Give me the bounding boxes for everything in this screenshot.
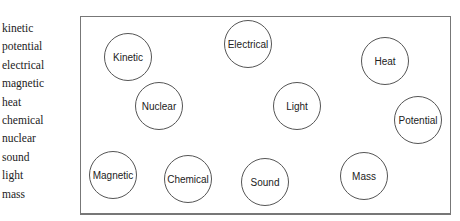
bubble-potential: Potential: [394, 96, 442, 144]
word-item: magnetic: [2, 74, 44, 92]
word-item: mass: [2, 185, 44, 203]
bubble-light: Light: [273, 82, 321, 130]
word-item: potential: [2, 37, 44, 55]
word-item: nuclear: [2, 129, 44, 147]
bubble-electrical: Electrical: [224, 20, 272, 68]
energy-word-list: kinetic potential electrical magnetic he…: [2, 19, 44, 203]
bubble-heat: Heat: [361, 37, 409, 85]
word-item: light: [2, 166, 44, 184]
bubble-magnetic: Magnetic: [89, 151, 137, 199]
bubble-kinetic: Kinetic: [104, 33, 152, 81]
word-item: electrical: [2, 56, 44, 74]
word-item: heat: [2, 93, 44, 111]
bubble-sound: Sound: [241, 158, 289, 206]
bubble-chemical: Chemical: [164, 155, 212, 203]
bubble-nuclear: Nuclear: [135, 82, 183, 130]
word-item: kinetic: [2, 19, 44, 37]
bubble-mass: Mass: [340, 152, 388, 200]
word-item: chemical: [2, 111, 44, 129]
word-item: sound: [2, 148, 44, 166]
